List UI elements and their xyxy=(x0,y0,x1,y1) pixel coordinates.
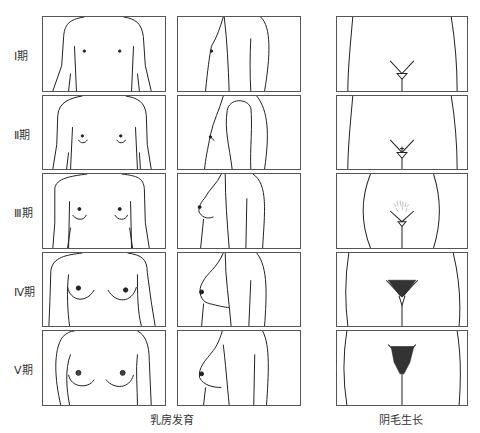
pubic-front-stage-5 xyxy=(336,330,468,406)
pubic-front-stage-3 xyxy=(336,173,468,249)
breast-front-stage-1 xyxy=(42,16,166,92)
caption-breast-development: 乳房发育 xyxy=(122,411,222,427)
breast-front-stage-2 xyxy=(42,95,166,170)
stage-label-1: Ⅰ期 xyxy=(14,47,44,63)
stage-label-3: Ⅲ期 xyxy=(14,204,44,220)
breast-side-stage-3 xyxy=(177,173,301,249)
breast-side-stage-4 xyxy=(177,252,301,327)
stage-label-5: Ⅴ期 xyxy=(14,361,44,377)
pubic-front-stage-4 xyxy=(336,252,468,327)
breast-front-stage-5 xyxy=(42,330,166,406)
pubic-front-stage-2 xyxy=(336,95,468,170)
breast-side-stage-1 xyxy=(177,16,301,92)
breast-front-stage-3 xyxy=(42,173,166,249)
pubic-front-stage-1 xyxy=(336,16,468,92)
breast-front-stage-4 xyxy=(42,252,166,327)
breast-side-stage-5 xyxy=(177,330,301,406)
caption-pubic-hair-growth: 阴毛生长 xyxy=(351,411,451,427)
breast-side-stage-2 xyxy=(177,95,301,170)
stage-label-4: Ⅳ期 xyxy=(14,283,44,299)
stage-label-2: Ⅱ期 xyxy=(14,126,44,142)
